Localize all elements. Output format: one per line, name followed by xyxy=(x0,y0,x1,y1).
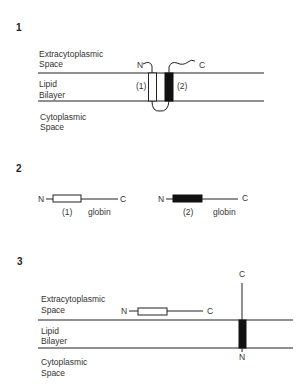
c-terminal-tail xyxy=(169,60,195,73)
cytoplasmic-label-line1: Cytoplasmic xyxy=(41,357,88,367)
tm-segment-1-white xyxy=(149,73,157,101)
panel-number-3: 3 xyxy=(17,256,23,267)
diagram-canvas: 1 Extracytoplasmic Space Lipid Bilayer C… xyxy=(0,0,304,389)
panel-number-2: 2 xyxy=(16,163,22,174)
construct-1-segment-white xyxy=(53,195,81,202)
n-terminal-tail xyxy=(143,62,152,73)
panel-number-1: 1 xyxy=(16,22,22,33)
fusion-construct-2: N C (2) globin xyxy=(158,193,248,217)
soluble-construct: N C xyxy=(121,306,213,316)
lipid-label-line2: Bilayer xyxy=(41,336,67,346)
extracytoplasmic-label-line2: Space xyxy=(41,305,65,315)
extracytoplasmic-label-line1: Extracytoplasmic xyxy=(39,49,104,59)
extracytoplasmic-label-line2: Space xyxy=(39,59,63,69)
membrane-c-label: C xyxy=(239,269,245,279)
construct-1-n-label: N xyxy=(38,194,44,204)
cytoplasmic-label-line2: Space xyxy=(41,368,65,378)
membrane-construct: C N xyxy=(239,269,246,362)
tm-segment-2-black xyxy=(165,73,173,101)
construct-1-globin-label: globin xyxy=(88,207,111,217)
panel-2: 2 N C (1) globin N C (2) globin xyxy=(16,163,248,217)
construct-1-segment-label: (1) xyxy=(62,207,73,217)
construct-2-segment-black xyxy=(173,195,202,202)
construct-1-c-label: C xyxy=(120,194,126,204)
n-terminus-label: N xyxy=(137,60,143,70)
lipid-label-line2: Bilayer xyxy=(39,90,65,100)
cytoplasmic-label-line1: Cytoplasmic xyxy=(40,112,87,122)
lipid-label-line1: Lipid xyxy=(41,326,59,336)
lipid-label-line1: Lipid xyxy=(39,79,57,89)
construct-2-segment-label: (2) xyxy=(183,207,194,217)
membrane-n-label: N xyxy=(239,352,245,362)
construct-2-c-label: C xyxy=(242,193,248,203)
panel-3: 3 Extracytoplasmic Space Lipid Bilayer C… xyxy=(17,256,293,378)
fusion-construct-1: N C (1) globin xyxy=(38,194,126,217)
soluble-n-label: N xyxy=(121,306,127,316)
membrane-segment-black xyxy=(239,320,246,348)
panel-1: 1 Extracytoplasmic Space Lipid Bilayer C… xyxy=(16,22,264,132)
segment-2-label: (2) xyxy=(177,81,188,91)
soluble-c-label: C xyxy=(207,306,213,316)
cytoplasmic-label-line2: Space xyxy=(40,122,64,132)
extracytoplasmic-label-line1: Extracytoplasmic xyxy=(41,294,106,304)
construct-2-n-label: N xyxy=(158,194,164,204)
cytoplasmic-loop xyxy=(152,101,169,111)
construct-2-globin-label: globin xyxy=(213,207,236,217)
segment-1-label: (1) xyxy=(136,81,147,91)
soluble-segment-white xyxy=(138,308,167,315)
c-terminus-label: C xyxy=(199,60,205,70)
